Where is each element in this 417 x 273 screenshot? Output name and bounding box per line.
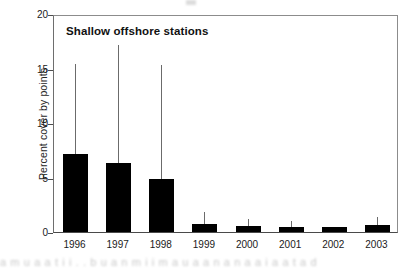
bar-1996 bbox=[63, 154, 88, 232]
page-caption-blurred: a m u a a t i i . . b u a n m i i m a u … bbox=[0, 256, 417, 273]
bar-2001 bbox=[279, 227, 304, 232]
plot-area: Shallow offshore stations bbox=[53, 15, 398, 233]
y-axis-tick-labels: 05101520 bbox=[22, 0, 48, 273]
x-tick-label-1996: 1996 bbox=[53, 239, 97, 250]
bar-2000 bbox=[236, 226, 261, 232]
x-tick-label-2000: 2000 bbox=[225, 239, 269, 250]
y-tick-label-15: 15 bbox=[24, 65, 48, 75]
x-tick-label-1997: 1997 bbox=[96, 239, 140, 250]
x-tick-label-1999: 1999 bbox=[182, 239, 226, 250]
x-tick-label-1998: 1998 bbox=[139, 239, 183, 250]
error-bar-1998 bbox=[161, 65, 162, 178]
x-tick-label-2003: 2003 bbox=[354, 239, 398, 250]
bar-1999 bbox=[192, 224, 217, 232]
y-tick-mark-15 bbox=[48, 70, 53, 71]
plot-inner: Shallow offshore stations bbox=[54, 16, 397, 232]
page-artifact-top bbox=[186, 0, 196, 5]
error-bar-2001 bbox=[291, 221, 292, 226]
error-bar-1997 bbox=[118, 45, 119, 164]
y-tick-mark-5 bbox=[48, 179, 53, 180]
error-bar-2000 bbox=[248, 219, 249, 226]
y-tick-mark-20 bbox=[48, 15, 53, 16]
error-bar-2003 bbox=[377, 217, 378, 226]
x-tick-label-2002: 2002 bbox=[311, 239, 355, 250]
chart-figure: Percent cover by points 05101520 Shallow… bbox=[0, 0, 417, 273]
bar-2002 bbox=[322, 227, 347, 232]
y-tick-label-20: 20 bbox=[24, 10, 48, 20]
chart-title: Shallow offshore stations bbox=[66, 25, 208, 37]
y-tick-mark-10 bbox=[48, 124, 53, 125]
error-bar-1999 bbox=[204, 212, 205, 224]
y-tick-label-0: 0 bbox=[24, 228, 48, 238]
bar-2003 bbox=[365, 225, 390, 232]
x-tick-label-2001: 2001 bbox=[268, 239, 312, 250]
y-tick-label-5: 5 bbox=[24, 174, 48, 184]
bar-1998 bbox=[149, 179, 174, 232]
bar-1997 bbox=[106, 163, 131, 232]
y-tick-mark-0 bbox=[48, 233, 53, 234]
y-tick-label-10: 10 bbox=[24, 119, 48, 129]
error-bar-1996 bbox=[75, 64, 76, 153]
